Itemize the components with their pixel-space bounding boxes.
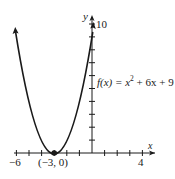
x-min-label: −6 (9, 156, 21, 168)
y-axis-label: y (82, 10, 88, 22)
y-max-label: 10 (96, 18, 108, 30)
function-label: f(x) = x2 + 6x + 9 (97, 74, 174, 89)
x-axis-label: x (147, 140, 153, 151)
right-curve-arrow-icon (90, 22, 96, 29)
function-label-prefix: f(x) = x (97, 76, 130, 89)
parabola-chart: y 10 x −6 4 (−3, 0) f(x) = x2 + 6x + 9 (0, 0, 175, 179)
vertex-label: (−3, 0) (38, 156, 68, 169)
x-max-label: 4 (138, 156, 144, 168)
parabola-curve (16, 32, 93, 154)
vertex-point (51, 150, 57, 156)
function-label-suffix: + 6x + 9 (134, 76, 174, 88)
